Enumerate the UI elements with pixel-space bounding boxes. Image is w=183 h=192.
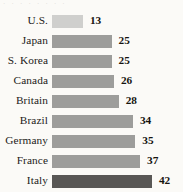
- bar-track: 35: [52, 131, 183, 151]
- category-label: Japan: [0, 35, 52, 46]
- bar-track: 34: [52, 111, 183, 131]
- bar: [52, 15, 83, 28]
- bar: [52, 115, 133, 128]
- bar-row: Germany35: [0, 131, 183, 151]
- bar-track: 25: [52, 31, 183, 51]
- cropped-header-text: · · · · · · · ·: [0, 0, 183, 9]
- category-label: Canada: [0, 75, 52, 86]
- bar-track: 42: [52, 171, 183, 191]
- bar-row: Brazil34: [0, 111, 183, 131]
- bar-row: S. Korea25: [0, 51, 183, 71]
- bar: [52, 95, 119, 108]
- value-label: 28: [126, 95, 137, 106]
- bar-rows: U.S.13Japan25S. Korea25Canada26Britain28…: [0, 11, 183, 191]
- bar: [52, 135, 135, 148]
- value-label: 35: [142, 135, 153, 146]
- bar-row: Japan25: [0, 31, 183, 51]
- bar-row: Italy42: [0, 171, 183, 191]
- category-label: France: [0, 155, 52, 166]
- bar-track: 25: [52, 51, 183, 71]
- value-label: 25: [119, 35, 130, 46]
- bar: [52, 55, 112, 68]
- value-label: 34: [140, 115, 151, 126]
- bar-row: Britain28: [0, 91, 183, 111]
- bar-track: 26: [52, 71, 183, 91]
- bar: [52, 155, 140, 168]
- category-label: Brazil: [0, 115, 52, 126]
- category-label: U.S.: [0, 15, 52, 26]
- bar-track: 37: [52, 151, 183, 171]
- value-label: 37: [147, 155, 158, 166]
- category-label: Germany: [0, 135, 52, 146]
- value-label: 42: [159, 175, 170, 186]
- value-label: 13: [90, 15, 101, 26]
- bar-row: U.S.13: [0, 11, 183, 31]
- category-label: Britain: [0, 95, 52, 106]
- category-label: S. Korea: [0, 55, 52, 66]
- bar: [52, 175, 152, 188]
- value-label: 25: [119, 55, 130, 66]
- bar-row: Canada26: [0, 71, 183, 91]
- value-label: 26: [121, 75, 132, 86]
- bar-row: France37: [0, 151, 183, 171]
- bar: [52, 35, 112, 48]
- bar-chart: · · · · · · · · U.S.13Japan25S. Korea25C…: [0, 0, 183, 192]
- bar-track: 28: [52, 91, 183, 111]
- bar-track: 13: [52, 11, 183, 31]
- bar: [52, 75, 114, 88]
- category-label: Italy: [0, 175, 52, 186]
